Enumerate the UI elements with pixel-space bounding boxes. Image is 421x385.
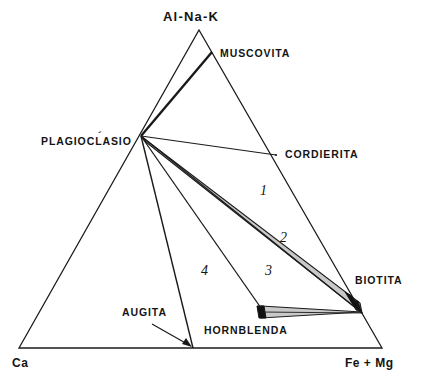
tie-line-plagioclase-biotite [141,136,362,313]
phase-label-plagioclase-text: PLAGIOCLASIO [41,135,132,147]
phase-label-cordierite: CORDIERITA [285,149,359,160]
region-label-2: 2 [280,231,287,245]
cordierite-node-dot [275,154,277,156]
phase-label-plagioclase: PLAGIOCLASIO ´ [41,136,132,147]
tie-line-plagioclase-muscovite [141,52,212,136]
region-label-1: 1 [260,184,267,198]
corner-label-ca: Ca [12,357,28,369]
phase-label-augite: AUGITA [122,307,167,318]
phase-label-biotite: BIOTITA [355,275,403,286]
phase-label-muscovite: MUSCOVITA [220,48,290,59]
triangle-outline [19,30,382,348]
apex-label-al-na-k: Al-Na-K [163,10,219,23]
phase-label-hornblende: HORNBLENDA [204,325,288,336]
corner-label-fe-mg: Fe + Mg [345,357,394,369]
region-label-4: 4 [201,264,208,278]
region-label-3: 3 [265,264,272,278]
tie-line-plagioclase-hornblende [141,136,261,308]
acute-accent-icon: ´ [98,130,103,141]
ternary-diagram: Al-Na-K Ca Fe + Mg PLAGIOCLASIO ´ MUSCOV… [0,0,421,385]
